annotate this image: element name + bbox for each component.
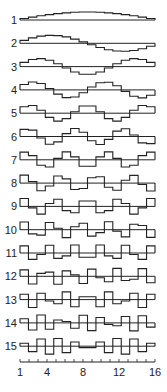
row-label: 4 — [11, 84, 17, 96]
row-label: 2 — [11, 37, 17, 49]
row-label: 8 — [11, 177, 17, 189]
row-label: 7 — [11, 154, 17, 166]
basis-row-10: 10 — [5, 222, 155, 238]
basis-row-13: 13 — [5, 292, 155, 308]
axis-tick-label: 1 — [17, 366, 23, 378]
row-label: 12 — [5, 270, 17, 282]
basis-row-6: 6 — [11, 129, 155, 145]
basis-row-5: 5 — [11, 106, 155, 122]
row-label: 3 — [11, 61, 17, 73]
basis-waveform — [20, 12, 155, 20]
basis-row-14: 14 — [5, 315, 155, 331]
x-axis: 1481216 — [17, 359, 161, 378]
row-label: 15 — [5, 340, 17, 352]
axis-tick-label: 16 — [149, 366, 161, 378]
basis-row-3: 3 — [11, 59, 155, 75]
axis-tick-label: 12 — [113, 366, 125, 378]
basis-row-7: 7 — [11, 152, 155, 167]
row-label: 6 — [11, 131, 17, 143]
row-label: 11 — [6, 247, 17, 259]
basis-row-11: 11 — [6, 245, 155, 259]
basis-row-12: 12 — [5, 268, 155, 284]
basis-function-figure: 123456789101112131415 1481216 — [0, 0, 167, 392]
axis-tick-label: 4 — [44, 366, 50, 378]
basis-waveform — [20, 245, 155, 259]
basis-row-8: 8 — [11, 175, 155, 191]
row-label: 13 — [5, 294, 17, 306]
basis-row-2: 2 — [11, 35, 155, 51]
basis-row-4: 4 — [11, 82, 155, 98]
basis-rows: 123456789101112131415 — [5, 12, 155, 354]
row-label: 1 — [11, 14, 17, 26]
basis-row-15: 15 — [5, 339, 155, 355]
basis-row-1: 1 — [11, 12, 155, 26]
row-label: 10 — [5, 224, 17, 236]
axis-tick-label: 8 — [80, 366, 86, 378]
row-label: 5 — [11, 107, 17, 119]
row-label: 14 — [5, 317, 17, 329]
row-label: 9 — [11, 200, 17, 212]
basis-row-9: 9 — [11, 198, 155, 214]
